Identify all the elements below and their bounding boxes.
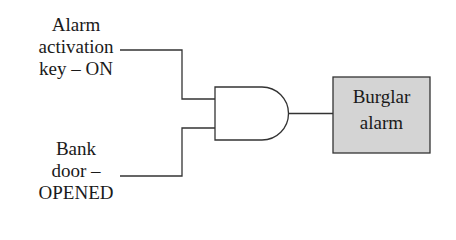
output-label-burglar-alarm: Burglar alarm (333, 84, 430, 136)
and-gate-icon (215, 87, 289, 140)
output-label-line: alarm (333, 110, 430, 136)
input-wire-2 (120, 128, 215, 176)
input-wire-1 (120, 50, 215, 99)
output-label-line: Burglar (333, 84, 430, 110)
